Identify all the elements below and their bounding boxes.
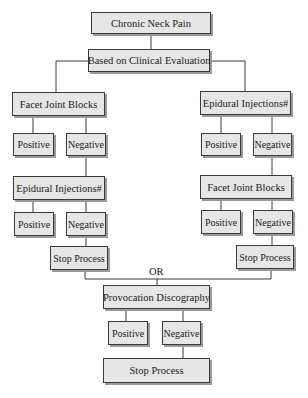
right-facet-joint-blocks-box: Facet Joint Blocks (200, 175, 292, 199)
left-facet-negative-box: Negative (66, 133, 106, 156)
left-epidural-positive-box: Positive (14, 212, 54, 236)
clinical-evaluation-box: Based on Clinical Evaluation (88, 49, 210, 72)
left-epidural-negative-box: Negative (66, 212, 106, 236)
provocation-discography-box: Provocation Discography (103, 285, 210, 309)
right-stop-process-box: Stop Process (236, 245, 294, 269)
right-epidural-injections-box: Epidural Injections# (200, 91, 291, 115)
discography-positive-box: Positive (108, 321, 148, 345)
right-facet-negative-box: Negative (253, 210, 293, 234)
left-facet-positive-box: Positive (13, 133, 54, 156)
or-label: OR (149, 266, 164, 277)
left-epidural-injections-box: Epidural Injections# (13, 176, 105, 200)
final-stop-process-box: Stop Process (103, 358, 210, 383)
left-facet-joint-blocks-box: Facet Joint Blocks (12, 92, 105, 116)
right-epidural-negative-box: Negative (253, 133, 292, 156)
right-facet-positive-box: Positive (201, 210, 241, 234)
flowchart-canvas: Chronic Neck Pain Based on Clinical Eval… (0, 0, 308, 398)
right-epidural-positive-box: Positive (201, 133, 241, 156)
chronic-neck-pain-box: Chronic Neck Pain (91, 12, 211, 34)
discography-negative-box: Negative (162, 321, 201, 345)
left-stop-process-box: Stop Process (50, 246, 108, 270)
